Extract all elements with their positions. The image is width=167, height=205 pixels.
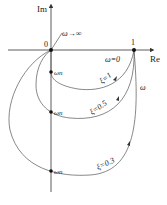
- curve-label-xi-1: ξ=1: [98, 71, 114, 86]
- curve-label-xi-0-5: ξ=0.5: [88, 98, 109, 116]
- omega-n-point-xi-0-5: [49, 110, 53, 114]
- origin-point: [49, 48, 53, 52]
- curve-xi-1: [51, 50, 134, 90]
- omega-direction-label: ω: [140, 83, 146, 92]
- omega-infinity-leader: [51, 33, 62, 50]
- arrow-xi-1: [113, 76, 117, 81]
- omega-n-label-1: ωn: [54, 69, 63, 77]
- arrow-xi-0-3: [127, 141, 130, 146]
- omega-infinity-label: ω→∞: [62, 29, 82, 38]
- real-axis-label: Re: [150, 54, 160, 64]
- arrow-xi-0-5: [116, 96, 119, 101]
- omega-n-point-xi-0-3: [49, 169, 53, 173]
- unit-point: [132, 48, 136, 52]
- omega-n-label-2: ωn: [54, 109, 63, 117]
- nyquist-diagram: Im Re 0 1 ω→∞ ω=0 ξ=1 ξ=0.5 ξ=0.3 ω ωn ω…: [0, 0, 167, 205]
- unit-point-label: 1: [131, 38, 135, 47]
- origin-label: 0: [44, 40, 48, 49]
- omega-n-label-3: ωn: [54, 168, 63, 176]
- imag-axis-label: Im: [37, 4, 47, 14]
- curve-label-xi-0-3: ξ=0.3: [95, 156, 116, 172]
- curve-xi-0-3: [9, 50, 136, 175]
- omega-zero-label: ω=0: [105, 55, 120, 64]
- omega-n-point-xi-1: [49, 70, 53, 74]
